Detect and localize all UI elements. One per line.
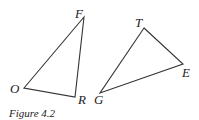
vertex-label-R: R — [77, 92, 86, 107]
triangle-FOR — [24, 17, 84, 97]
figure-canvas: F O R T E G Figure 4.2 — [0, 0, 199, 120]
vertex-label-F: F — [74, 6, 84, 21]
triangle-TEG — [100, 28, 183, 93]
vertex-label-O: O — [10, 81, 20, 96]
vertex-label-E: E — [181, 65, 190, 80]
vertex-label-T: T — [135, 15, 143, 30]
vertex-label-G: G — [94, 92, 104, 107]
figure-caption: Figure 4.2 — [8, 107, 56, 119]
geometry-figure: F O R T E G Figure 4.2 — [0, 0, 199, 120]
